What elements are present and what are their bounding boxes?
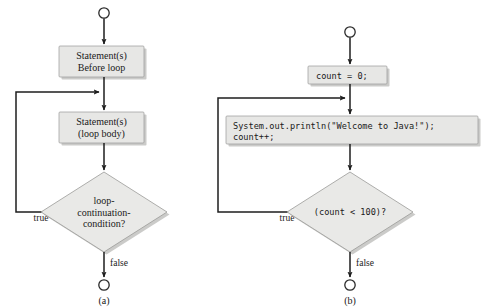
panel-a-caption: (a) <box>98 295 109 307</box>
panel-b-false-label: false <box>356 258 374 268</box>
panel-b-init-line1: count = 0; <box>316 71 368 81</box>
panel-b-loop-body-line2: count++; <box>233 132 274 142</box>
panel-b-end-terminator <box>345 280 355 290</box>
panel-a-decision-line2: continuation- <box>77 207 130 218</box>
panel-a: Statement(s) Before loop true Statement(… <box>16 8 170 307</box>
panel-b-start-terminator <box>345 27 355 37</box>
panel-a-false-label: false <box>110 258 128 268</box>
panel-a-before-loop-line1: Statement(s) <box>76 50 127 62</box>
flowchart-canvas: Statement(s) Before loop true Statement(… <box>0 0 490 308</box>
panel-a-end-terminator <box>99 280 109 290</box>
panel-a-decision-line1: loop- <box>93 195 114 206</box>
panel-a-start-terminator <box>99 8 109 18</box>
flowchart-figure: Statement(s) Before loop true Statement(… <box>0 0 490 308</box>
panel-a-loop-body-line2: (loop body) <box>78 128 125 140</box>
panel-b-caption: (b) <box>344 295 356 307</box>
panel-a-loop-body-line1: Statement(s) <box>76 116 127 128</box>
panel-a-decision-line3: condition? <box>83 218 126 229</box>
panel-b-decision-line1: (count < 100)? <box>314 207 386 217</box>
panel-a-before-loop-line2: Before loop <box>78 62 126 73</box>
panel-b: count = 0; true System.out.println("Welc… <box>218 27 481 307</box>
panel-b-loop-body-line1: System.out.println("Welcome to Java!"); <box>233 121 435 131</box>
